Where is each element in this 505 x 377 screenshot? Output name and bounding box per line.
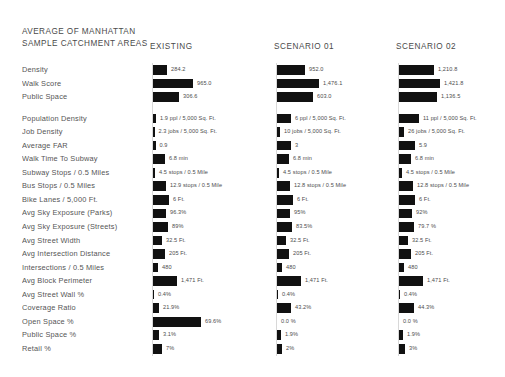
bar-value-label: 480 [408,263,418,273]
chart-column-existing: 284.2965.0306.61.9 ppl / 5,000 Sq. Ft.2.… [153,63,275,355]
bar-value-label: 83.5% [296,222,312,232]
row-label: Walk Time To Subway [22,152,147,166]
bar [277,330,281,340]
row-label: Avg Sky Exposure (Parks) [22,206,147,220]
table-row: 2.3 jobs / 5,000 Sq. Ft. [153,125,275,139]
bar-value-label: 2% [286,344,294,354]
row-label: Walk Score [22,77,147,91]
row-label: Avg Street Width [22,234,147,248]
table-row: 5.9 [399,139,503,153]
table-row: 0.4% [277,288,397,302]
bar-value-label: 4.5 stops / 0.5 Mile [159,168,208,178]
row-label-list: DensityWalk ScorePublic SpacePopulation … [22,63,147,355]
row-label: Density [22,63,147,77]
bar-value-label: 92% [416,208,428,218]
bar-value-label: 32.5 Ft. [412,236,432,246]
table-row: 284.2 [153,63,275,77]
table-row: 89% [153,220,275,234]
table-row: 32.5 Ft. [153,234,275,248]
bar [399,168,402,178]
table-row: 26 jobs / 5,000 Sq. Ft. [399,125,503,139]
table-row: 1,471 Ft. [153,274,275,288]
bar-value-label: 1,476.1 [323,79,342,89]
column-header-existing: EXISTING [150,42,193,51]
bar [399,276,423,286]
table-row: 6 Ft. [153,193,275,207]
bar [277,181,290,191]
bar-value-label: 7% [166,344,174,354]
bar [399,127,404,137]
table-row: 12.8 stops / 0.5 Mile [399,179,503,193]
bar [153,209,166,219]
bar [277,249,289,259]
bar [153,249,165,259]
bar-value-label: 32.5 Ft. [166,236,186,246]
table-row: 6.8 min [399,152,503,166]
bar-value-label: 1,421.8 [444,79,463,89]
table-row: 1.9% [399,328,503,342]
bar-value-label: 4.5 stops / 0.5 Mile [406,168,455,178]
bar [399,222,414,232]
bar [277,79,319,89]
bar [277,168,279,178]
chart-column-scenario01: 952.01,476.1603.06 ppl / 5,000 Sq. Ft.10… [277,63,397,355]
bar [277,303,291,313]
bar [399,92,437,102]
table-row: 6.8 min [153,152,275,166]
bar-value-label: 306.6 [183,92,198,102]
bar [277,195,293,205]
table-row: 1,136.5 [399,90,503,104]
table-row: 4.5 stops / 0.5 Mile [277,166,397,180]
row-label: Avg Block Perimeter [22,274,147,288]
bar-value-label: 79.7 % [418,222,436,232]
bar [277,209,290,219]
row-label: Open Space % [22,315,147,329]
bar-value-label: 4.5 stops / 0.5 Mile [283,168,332,178]
bar-value-label: 12.8 stops / 0.5 Mile [294,181,346,191]
table-row: 10 jobs / 5,000 Sq. Ft. [277,125,397,139]
bar [153,65,167,75]
table-row: 0.4% [399,288,503,302]
table-row: 92% [399,206,503,220]
row-label: Intersections / 0.5 Miles [22,261,147,275]
table-row: 11 ppl / 5,000 Sq. Ft. [399,112,503,126]
bar [277,114,291,124]
table-row: 3% [399,342,503,356]
bar [399,181,413,191]
table-row: 0.0 % [399,315,503,329]
bar [399,236,408,246]
table-row: 32.5 Ft. [277,234,397,248]
bar [399,195,415,205]
table-row: 965.0 [153,77,275,91]
table-row: 480 [153,261,275,275]
bar-value-label: 480 [162,263,172,273]
bar-value-label: 96.3% [170,208,186,218]
table-row: 205 Ft. [277,247,397,261]
bar [153,303,159,313]
table-row: 0.9 [153,139,275,153]
table-row: 205 Ft. [399,247,503,261]
bar-value-label: 205 Ft. [415,249,433,259]
bar-value-label: 12.9 stops / 0.5 Mile [170,181,222,191]
row-label: Average FAR [22,139,147,153]
table-row: 1.9% [277,328,397,342]
row-label: Avg Intersection Distance [22,247,147,261]
table-row: 1,421.8 [399,77,503,91]
table-row: 6 ppl / 5,000 Sq. Ft. [277,112,397,126]
table-row: 7% [153,342,275,356]
bar [153,330,159,340]
bar-value-label: 1,471 Ft. [305,276,328,286]
bar [399,249,411,259]
bar-value-label: 1.9 ppl / 5,000 Sq. Ft. [160,114,216,124]
table-row: 0.0 % [277,315,397,329]
bar [399,65,434,75]
bar [277,344,282,354]
bar [153,317,201,327]
row-label: Coverage Ratio [22,301,147,315]
table-row: 4.5 stops / 0.5 Mile [153,166,275,180]
table-row: 96.3% [153,206,275,220]
table-row: 952.0 [277,63,397,77]
bar-value-label: 69.6% [205,317,221,327]
bar [153,236,162,246]
bar-value-label: 1,471 Ft. [427,276,450,286]
